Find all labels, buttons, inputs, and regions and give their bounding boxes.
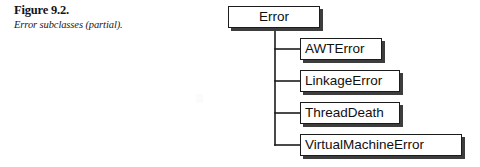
class-node-linkageerror: LinkageError [300, 70, 400, 92]
class-node-root: Error [228, 6, 320, 28]
class-node-label: ThreadDeath [305, 106, 384, 120]
class-node-virtualmachineerror: VirtualMachineError [300, 134, 462, 156]
figure-page: Figure 9.2. Error subclasses (partial). … [0, 0, 480, 167]
class-node-threaddeath: ThreadDeath [300, 102, 400, 124]
class-node-label: LinkageError [305, 74, 382, 88]
class-node-label: AWTError [305, 42, 365, 56]
class-node-label: Error [259, 10, 289, 24]
class-node-awterror: AWTError [300, 38, 382, 60]
class-node-label: VirtualMachineError [305, 138, 424, 152]
class-hierarchy-diagram: Error AWTError LinkageError ThreadDeath … [0, 0, 480, 167]
